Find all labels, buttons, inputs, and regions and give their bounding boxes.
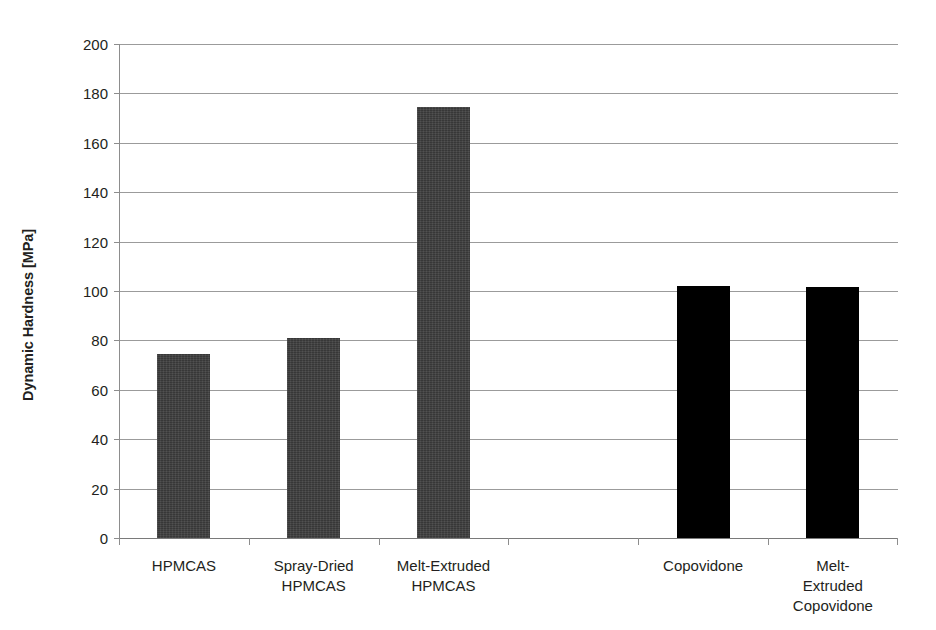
x-axis-tick-mark [768,538,769,545]
x-axis-tick-mark [249,538,250,545]
y-axis-tick-label: 140 [83,184,108,201]
y-axis-tick-mark [114,390,120,391]
y-axis-tick-mark [114,242,120,243]
y-axis-title: Dynamic Hardness [MPa] [0,0,56,630]
gridline [119,291,898,292]
bar [806,287,859,538]
gridline [119,143,898,144]
y-axis-tick-mark [114,93,120,94]
y-axis-tick-label: 0 [100,530,108,547]
gridline [119,192,898,193]
y-axis-tick-label: 160 [83,134,108,151]
gridline [119,489,898,490]
x-axis-category-label: Melt-Extruded HPMCAS [397,556,490,596]
y-axis-tick-mark [114,143,120,144]
bar-chart-figure: Dynamic Hardness [MPa] 02040608010012014… [0,0,936,630]
gridline [119,93,898,94]
y-axis-tick-mark [114,489,120,490]
y-axis-tick-mark [114,439,120,440]
x-axis-category-label: Copovidone [663,556,743,576]
bar [157,354,210,538]
x-axis-tick-mark [119,538,120,545]
gridline [119,44,898,45]
x-axis-tick-mark [379,538,380,545]
x-axis-tick-mark [508,538,509,545]
bar [287,338,340,538]
gridline [119,340,898,341]
y-axis-tick-label: 120 [83,233,108,250]
y-axis-tick-label: 40 [91,431,108,448]
plot-area: 020406080100120140160180200HPMCASSpray-D… [119,44,898,538]
x-axis-tick-mark [638,538,639,545]
bar [417,107,470,538]
y-axis-tick-label: 200 [83,36,108,53]
x-axis-category-label: Spray-Dried HPMCAS [274,556,354,596]
x-axis-tick-mark [897,538,898,545]
y-axis-tick-mark [114,291,120,292]
gridline [119,242,898,243]
gridline [119,390,898,391]
y-axis-tick-mark [114,340,120,341]
y-axis-tick-mark [114,192,120,193]
y-axis-tick-label: 100 [83,283,108,300]
y-axis-tick-label: 80 [91,332,108,349]
y-axis-tick-label: 180 [83,85,108,102]
y-axis-tick-label: 20 [91,480,108,497]
y-axis-tick-mark [114,44,120,45]
bar [677,286,730,538]
x-axis-category-label: HPMCAS [152,556,216,576]
y-axis-tick-label: 60 [91,381,108,398]
gridline [119,439,898,440]
x-axis-category-label: Melt-Extruded Copovidone [793,556,873,616]
